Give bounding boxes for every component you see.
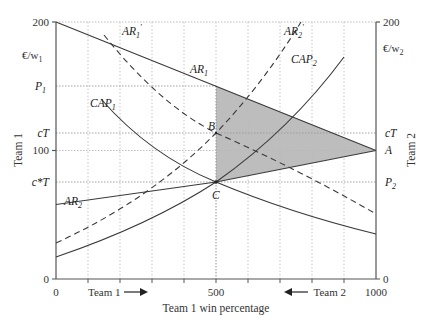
y-right-unit: €/w2: [383, 42, 404, 57]
y-right-cT: cT: [385, 127, 398, 139]
point-B-label: B: [208, 120, 215, 132]
AR2-prime-label: AR2': [283, 23, 304, 40]
arrow-right-icon: [124, 288, 148, 296]
y-right-0: 0: [383, 273, 389, 285]
x-0: 0: [53, 286, 59, 298]
y-left-200: 200: [33, 16, 50, 28]
chart: 200 €/w1 P1 cT 100 c*T 0 Team 1 200 €/w2…: [0, 0, 436, 327]
CAP1-label: CAP1: [90, 97, 116, 112]
y-right-200: 200: [383, 16, 400, 28]
arrow-left-icon: [284, 288, 308, 296]
y-left-axis-title: Team 1: [12, 133, 24, 167]
y-left-P1: P1: [34, 80, 46, 95]
y-left-unit: €/w1: [22, 49, 43, 64]
x-1000: 1000: [365, 286, 388, 298]
x-axis-title: Team 1 win percentage: [163, 302, 270, 315]
x-team1-label: Team 1: [88, 286, 121, 298]
CAP2-label: CAP2: [291, 53, 317, 68]
y-left-100: 100: [33, 144, 50, 156]
y-left-0: 0: [44, 273, 50, 285]
x-500: 500: [208, 286, 225, 298]
x-team2-label: Team 2: [313, 286, 346, 298]
point-B: [215, 132, 217, 134]
AR1-label: AR1: [189, 63, 208, 78]
point-C: [214, 180, 218, 184]
y-left-cT: cT: [38, 127, 51, 139]
point-C-label: C: [212, 189, 220, 201]
y-right-P2: P2: [384, 176, 396, 191]
AR2-label: AR2: [63, 195, 82, 210]
point-A-label: A: [384, 144, 393, 156]
y-left-cstarT: c*T: [32, 176, 51, 188]
AR1-prime-label: AR1': [121, 23, 142, 40]
shaded-region: [216, 86, 376, 182]
y-right-axis-title: Team 2: [405, 133, 417, 167]
